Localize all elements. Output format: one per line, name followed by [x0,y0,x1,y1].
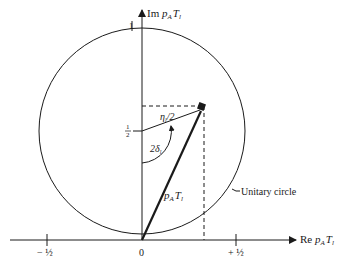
tick-label-neg-half: − ½ [37,247,53,258]
radius-label: ηl/2 [160,111,174,123]
tick-label-top-one: 1 [129,21,134,31]
real-axis-label: Re pATl [300,233,334,247]
vector-label: pATl [163,189,183,203]
point-marker [197,102,206,111]
unitary-circle-label: Unitary circle [241,186,297,197]
tick-label-origin: 0 [139,247,144,258]
tick-label-pos-half: + ½ [228,247,244,258]
circle-label-pointer [232,189,240,191]
imaginary-axis-label: Im pATl [147,7,181,21]
argand-diagram: Im pATl Re pATl 1 1 2 − ½ 0 + ½ ηl/2 2δl… [0,0,344,265]
tick-label-half-num: 1 [126,123,130,131]
angle-label: 2δl [150,143,162,155]
tick-label-half-den: 2 [126,131,130,139]
